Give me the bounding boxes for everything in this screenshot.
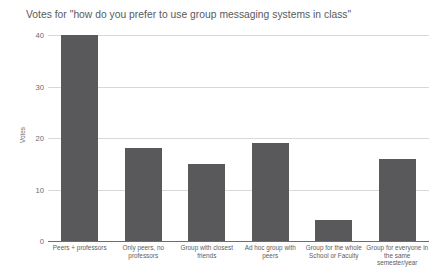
y-tick-label: 10: [26, 185, 44, 194]
bar: [61, 35, 98, 241]
y-tick-label: 40: [26, 31, 44, 40]
y-tick-label: 20: [26, 134, 44, 143]
bar: [252, 143, 289, 241]
x-tick-label: Group for everyone in the same semester/…: [364, 244, 430, 267]
bar: [125, 148, 162, 241]
x-tick-label: Group with closest friends: [174, 244, 240, 259]
axis-baseline: [48, 241, 429, 242]
bar-chart: Votes for "how do you prefer to use grou…: [0, 0, 437, 270]
y-tick-label: 30: [26, 82, 44, 91]
chart-title: Votes for "how do you prefer to use grou…: [26, 9, 351, 20]
bar: [315, 220, 352, 241]
x-tick-label: Peers + professors: [47, 244, 113, 252]
bar: [188, 164, 225, 241]
x-tick-label: Only peers, no professors: [110, 244, 176, 259]
y-tick-label: 0: [26, 237, 44, 246]
plot-area: [48, 35, 429, 241]
y-axis-tick-labels: 010203040: [24, 35, 44, 241]
x-tick-label: Ad hoc group with peers: [237, 244, 303, 259]
x-tick-label: Group for the whole School or Faculty: [301, 244, 367, 259]
bar: [379, 159, 416, 241]
bars: [48, 35, 429, 241]
x-axis-category-labels: Peers + professorsOnly peers, no profess…: [48, 244, 429, 270]
